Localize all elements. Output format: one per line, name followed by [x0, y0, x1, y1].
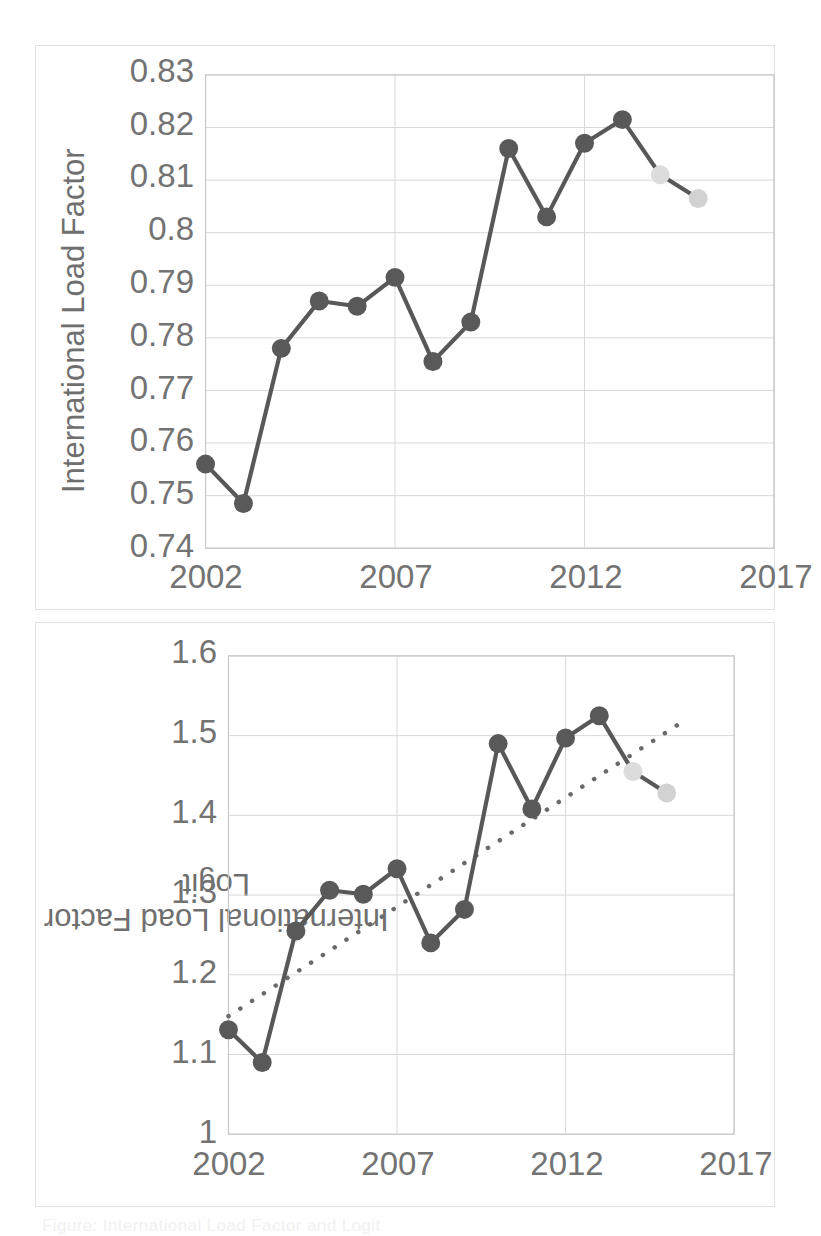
data-point-marker	[423, 352, 442, 371]
chart-panel-load-factor-logit: International Load FactorLogit 1.61.51.4…	[35, 622, 775, 1207]
data-point-marker	[624, 762, 643, 781]
data-point-marker	[657, 784, 676, 803]
data-point-marker	[196, 455, 215, 474]
data-point-marker	[348, 297, 367, 316]
data-point-marker	[386, 268, 405, 287]
plot-frame	[206, 75, 774, 548]
data-point-marker	[575, 134, 594, 153]
chart-panel-load-factor: International Load Factor 0.830.820.810.…	[35, 45, 775, 610]
data-point-marker	[556, 729, 575, 748]
plot-area-top	[36, 46, 774, 609]
data-point-marker	[613, 110, 632, 129]
data-point-marker	[651, 165, 670, 184]
data-point-marker	[310, 292, 329, 311]
data-series-line	[228, 716, 666, 1063]
data-point-marker	[234, 494, 253, 513]
data-point-marker	[354, 885, 373, 904]
data-point-marker	[272, 339, 291, 358]
data-point-marker	[499, 139, 518, 158]
data-point-marker	[388, 859, 407, 878]
data-point-marker	[286, 921, 305, 940]
data-point-marker	[537, 207, 556, 226]
data-point-marker	[689, 189, 708, 208]
data-point-marker	[590, 706, 609, 725]
plot-area-bottom	[36, 623, 774, 1206]
data-point-marker	[219, 1020, 238, 1039]
data-point-marker	[522, 799, 541, 818]
data-point-marker	[461, 313, 480, 332]
trendline-dotted	[228, 719, 686, 1016]
data-series-line	[206, 120, 699, 504]
data-point-marker	[320, 881, 339, 900]
data-point-marker	[253, 1053, 272, 1072]
data-point-marker	[489, 734, 508, 753]
data-point-marker	[455, 900, 474, 919]
data-point-marker	[421, 933, 440, 952]
figure-caption: Figure: International Load Factor and Lo…	[42, 1216, 381, 1236]
